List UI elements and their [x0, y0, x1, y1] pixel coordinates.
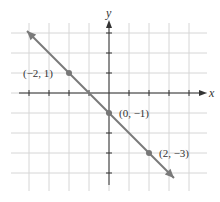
y-axis-arrow-icon	[106, 20, 112, 28]
point-label: (−2, 1)	[23, 67, 53, 80]
data-point	[106, 110, 112, 116]
line-chart: xy (−2, 1)(0, −1)(2, −3)	[0, 0, 220, 202]
data-point	[146, 150, 152, 156]
y-axis-label: y	[105, 6, 112, 20]
data-point	[66, 70, 72, 76]
x-axis-label: x	[208, 86, 215, 100]
point-label: (2, −3)	[159, 147, 189, 160]
x-axis-arrow-icon	[199, 90, 207, 96]
point-label: (0, −1)	[119, 107, 149, 120]
